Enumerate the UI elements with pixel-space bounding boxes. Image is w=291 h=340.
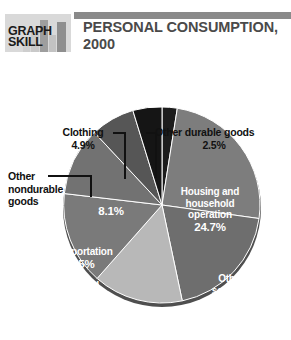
slice-label-transportation-line1: Transportation xyxy=(45,246,112,257)
slice-value-food: 14.1% xyxy=(57,292,117,305)
slice-label-housing-line1: Housing and xyxy=(181,186,239,197)
slice-label-other-services-line1: Other xyxy=(218,273,244,284)
callout-label-other-durable-goods-text: Other durable goods xyxy=(155,126,254,138)
slice-label-medical-care-line2: care xyxy=(138,325,158,336)
callout-label-other-nondurable-line2: nondurable xyxy=(8,183,63,195)
leader-line-other-durable-vertical xyxy=(155,132,157,178)
slice-value-medical-care: 14.8% xyxy=(117,336,179,340)
leader-line-clothing-vertical xyxy=(124,132,126,179)
slice-value-other-nondurable-goods: 8.1% xyxy=(84,206,138,218)
leader-line-other-nondurable-vertical xyxy=(90,175,92,197)
slice-value-housing: 24.7% xyxy=(164,221,256,234)
slice-label-food-line1: Food xyxy=(75,280,99,291)
callout-label-other-nondurable-line1: Other xyxy=(8,170,35,182)
graph-skill-figure: GRAPH SKILL PERSONAL CONSUMPTION, 2000 xyxy=(0,0,291,340)
leader-line-other-nondurable-horizontal xyxy=(48,175,92,177)
slice-label-transportation: Transportation 11.5% xyxy=(33,246,125,271)
slice-label-medical-care-line1: Medical xyxy=(130,313,165,324)
callout-label-other-durable-goods: Other durable goods 2.5% xyxy=(155,126,285,151)
callout-label-clothing-text: Clothing xyxy=(63,126,104,138)
slice-value-transportation: 11.5% xyxy=(33,258,125,271)
slice-label-housing-line2: household xyxy=(186,198,235,209)
slice-label-housing: Housing and household operation 24.7% xyxy=(164,186,256,234)
slice-label-other-services-line2: services xyxy=(212,285,250,296)
callout-label-clothing: Clothing 4.9% xyxy=(46,126,120,151)
slice-label-food: Food 14.1% xyxy=(57,280,117,305)
slice-label-housing-line3: operation xyxy=(188,209,232,220)
slice-label-medical-care: Medical care 14.8% xyxy=(117,313,179,340)
slice-label-other-services: Other services 19.5% xyxy=(200,273,262,309)
callout-value-other-durable-goods: 2.5% xyxy=(155,139,273,152)
logo-text-skill: SKILL xyxy=(8,36,43,48)
callout-value-clothing: 4.9% xyxy=(46,139,120,152)
page-title: PERSONAL CONSUMPTION, 2000 xyxy=(83,19,288,52)
graph-skill-logo: GRAPH SKILL xyxy=(5,14,71,52)
pie-chart: Housing and household operation 24.7% Ot… xyxy=(0,58,291,340)
slice-value-other-services: 19.5% xyxy=(200,296,262,309)
figure-header: GRAPH SKILL PERSONAL CONSUMPTION, 2000 xyxy=(0,0,291,58)
header-rule xyxy=(74,12,291,19)
callout-label-other-nondurable-line3: goods xyxy=(8,195,39,207)
